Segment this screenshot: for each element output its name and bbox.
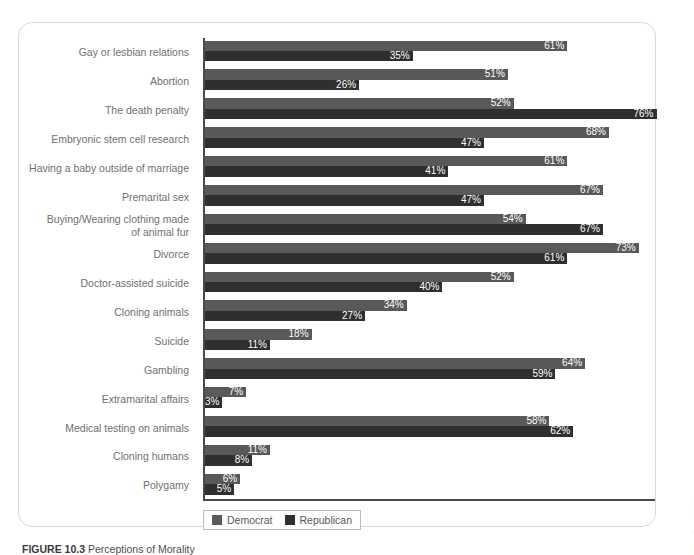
- bar-value-label: 52%: [491, 98, 511, 108]
- bar-value-label: 7%: [229, 387, 243, 397]
- chart-legend: Democrat Republican: [203, 510, 361, 530]
- category-label: Divorce: [19, 240, 195, 269]
- bar-republican[interactable]: 26%: [205, 80, 360, 90]
- chart-row: Abortion51%26%: [19, 67, 657, 96]
- bar-democrat[interactable]: 64%: [205, 358, 586, 368]
- bar-value-label: 47%: [461, 195, 481, 205]
- bar-value-label: 35%: [390, 51, 410, 61]
- bar-democrat[interactable]: 51%: [205, 69, 508, 79]
- legend-swatch-democrat-icon: [212, 515, 222, 525]
- bar-republican[interactable]: 35%: [205, 51, 413, 61]
- category-label-line: Doctor-assisted suicide: [80, 277, 189, 290]
- figure-caption-number: FIGURE 10.3: [22, 543, 85, 555]
- bar-democrat[interactable]: 54%: [205, 214, 526, 224]
- chart-row: Cloning animals34%27%: [19, 298, 657, 327]
- category-label: The death penalty: [19, 96, 195, 125]
- category-label-line: Embryonic stem cell research: [51, 133, 189, 146]
- chart-row: Extramarital affairs7%3%: [19, 385, 657, 414]
- category-label-line: Polygamy: [143, 479, 189, 492]
- bar-republican[interactable]: 3%: [205, 397, 223, 407]
- bar-group: 6%5%: [205, 471, 657, 500]
- bar-democrat[interactable]: 73%: [205, 243, 639, 253]
- bar-value-label: 5%: [217, 484, 231, 494]
- bar-democrat[interactable]: 34%: [205, 300, 407, 310]
- category-label-line: Buying/Wearing clothing made: [47, 213, 189, 226]
- category-label: Suicide: [19, 327, 195, 356]
- bar-value-label: 34%: [384, 300, 404, 310]
- chart-row: Polygamy6%5%: [19, 471, 657, 500]
- chart-row: Embryonic stem cell research68%47%: [19, 125, 657, 154]
- category-label-line: Gay or lesbian relations: [79, 46, 189, 59]
- legend-swatch-republican-icon: [285, 515, 295, 525]
- bar-republican[interactable]: 62%: [205, 426, 574, 436]
- legend-item-democrat[interactable]: Democrat: [212, 514, 273, 526]
- bar-democrat[interactable]: 58%: [205, 416, 550, 426]
- bar-republican[interactable]: 59%: [205, 369, 556, 379]
- category-label-line: Cloning humans: [113, 450, 189, 463]
- bar-value-label: 58%: [526, 416, 546, 426]
- bar-republican[interactable]: 40%: [205, 282, 443, 292]
- bar-republican[interactable]: 27%: [205, 311, 366, 321]
- bar-democrat[interactable]: 67%: [205, 185, 603, 195]
- bar-democrat[interactable]: 61%: [205, 41, 568, 51]
- legend-label-republican: Republican: [300, 514, 353, 526]
- category-label-line: The death penalty: [105, 104, 189, 117]
- bar-democrat[interactable]: 52%: [205, 98, 514, 108]
- category-label-line: Gambling: [144, 364, 189, 377]
- bar-group: 54%67%: [205, 211, 657, 240]
- category-label-line: Medical testing on animals: [65, 422, 189, 435]
- bar-value-label: 52%: [491, 272, 511, 282]
- chart-row: Gambling64%59%: [19, 356, 657, 385]
- bar-republican[interactable]: 11%: [205, 340, 270, 350]
- bar-republican[interactable]: 76%: [205, 109, 657, 119]
- bar-group: 68%47%: [205, 125, 657, 154]
- bar-group: 67%47%: [205, 182, 657, 211]
- bar-republican[interactable]: 61%: [205, 253, 568, 263]
- bar-value-label: 11%: [248, 340, 267, 350]
- bar-republican[interactable]: 41%: [205, 166, 449, 176]
- legend-item-republican[interactable]: Republican: [285, 514, 353, 526]
- bar-value-label: 61%: [544, 253, 564, 263]
- bar-value-label: 3%: [205, 397, 219, 407]
- bar-value-label: 26%: [336, 80, 356, 90]
- bar-value-label: 51%: [485, 69, 505, 79]
- bar-republican[interactable]: 47%: [205, 138, 485, 148]
- bar-group: 61%35%: [205, 38, 657, 67]
- bar-value-label: 68%: [586, 127, 606, 137]
- category-label-line: of animal fur: [131, 226, 189, 239]
- category-label: Premarital sex: [19, 182, 195, 211]
- chart-row: Suicide18%11%: [19, 327, 657, 356]
- chart-row: Doctor-assisted suicide52%40%: [19, 269, 657, 298]
- bar-value-label: 8%: [235, 455, 249, 465]
- category-label: Gay or lesbian relations: [19, 38, 195, 67]
- category-label-line: Extramarital affairs: [102, 393, 189, 406]
- category-label: Having a baby outside of marriage: [19, 154, 195, 183]
- category-label: Medical testing on animals: [19, 413, 195, 442]
- bar-value-label: 40%: [419, 282, 439, 292]
- bar-democrat[interactable]: 61%: [205, 156, 568, 166]
- bar-democrat[interactable]: 52%: [205, 272, 514, 282]
- bar-group: 52%76%: [205, 96, 657, 125]
- bar-republican[interactable]: 5%: [205, 484, 235, 494]
- category-label: Embryonic stem cell research: [19, 125, 195, 154]
- bar-value-label: 61%: [544, 41, 564, 51]
- bar-group: 51%26%: [205, 67, 657, 96]
- bar-group: 64%59%: [205, 356, 657, 385]
- category-label-line: Having a baby outside of marriage: [29, 162, 189, 175]
- bar-republican[interactable]: 67%: [205, 224, 603, 234]
- category-label-line: Cloning animals: [114, 306, 189, 319]
- category-label-line: Premarital sex: [122, 191, 189, 204]
- bar-republican[interactable]: 47%: [205, 195, 485, 205]
- bar-value-label: 62%: [550, 426, 570, 436]
- bar-democrat[interactable]: 68%: [205, 127, 609, 137]
- chart-row: The death penalty52%76%: [19, 96, 657, 125]
- bar-value-label: 27%: [342, 311, 362, 321]
- bar-republican[interactable]: 8%: [205, 455, 253, 465]
- bar-value-label: 18%: [289, 329, 309, 339]
- bar-value-label: 11%: [248, 445, 267, 455]
- bar-value-label: 47%: [461, 138, 481, 148]
- bar-group: 61%41%: [205, 154, 657, 183]
- chart-row: Cloning humans11%8%: [19, 442, 657, 471]
- category-label-line: Abortion: [150, 75, 189, 88]
- bar-value-label: 54%: [503, 214, 523, 224]
